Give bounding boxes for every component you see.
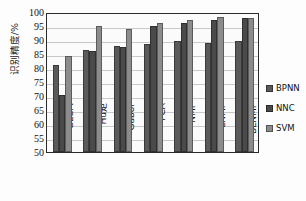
bar-bpnn-hu矩 [83, 50, 89, 152]
bar-svm-hu矩 [96, 26, 102, 152]
bar-chart: 识别精度/% 10095908580757065605550 GLCMHu矩Ga… [0, 0, 306, 201]
y-tick-label: 90 [22, 36, 44, 46]
bar-nnc-glcm [59, 95, 65, 152]
bar-svm-pca [157, 23, 163, 152]
bar-group [53, 14, 72, 152]
bar-nnc-nmf [181, 23, 187, 152]
bar-nnc-hu矩 [89, 51, 95, 152]
bar-svm-nmf [187, 20, 193, 152]
bar-nnc-blnmf [242, 18, 248, 152]
legend-label: NNC [276, 103, 295, 113]
bar-bpnn-blnmf [235, 41, 241, 152]
bar-bpnn-lnmf [205, 43, 211, 152]
bar-svm-lnmf [217, 17, 223, 152]
bar-group [114, 14, 133, 152]
bar-svm-blnmf [248, 18, 254, 152]
y-tick-label: 100 [22, 8, 44, 18]
bar-svm-gabor [126, 29, 132, 152]
bar-nnc-lnmf [211, 20, 217, 152]
bar-bpnn-pca [144, 44, 150, 152]
y-tick-label: 50 [22, 148, 44, 158]
bar-nnc-pca [150, 26, 156, 152]
legend-swatch-icon [266, 125, 273, 132]
legend-item-svm[interactable]: SVM [266, 120, 306, 136]
bar-nnc-gabor [120, 47, 126, 152]
y-tick-label: 95 [22, 22, 44, 32]
bar-bpnn-nmf [174, 41, 180, 152]
bar-bpnn-gabor [114, 46, 120, 152]
bar-group [174, 14, 193, 152]
y-tick-label: 80 [22, 64, 44, 74]
bar-group [205, 14, 224, 152]
y-tick-label: 85 [22, 50, 44, 60]
bar-group [83, 14, 102, 152]
legend-item-bpnn[interactable]: BPNN [266, 80, 306, 96]
y-axis-title: 识别精度/% [7, 11, 21, 87]
legend-label: SVM [276, 123, 295, 133]
y-tick-label: 60 [22, 120, 44, 130]
legend-label: BPNN [276, 83, 300, 93]
bar-bpnn-glcm [53, 65, 59, 152]
legend-swatch-icon [266, 105, 273, 112]
y-tick-label: 65 [22, 106, 44, 116]
y-tick-label: 75 [22, 78, 44, 88]
legend-swatch-icon [266, 85, 273, 92]
legend-item-nnc[interactable]: NNC [266, 100, 306, 116]
y-tick-label: 55 [22, 134, 44, 144]
legend: BPNNNNCSVM [266, 80, 306, 140]
bar-group [144, 14, 163, 152]
bar-group [235, 14, 254, 152]
y-tick-label: 70 [22, 92, 44, 102]
plot-area [46, 13, 259, 153]
bar-svm-glcm [65, 56, 71, 152]
